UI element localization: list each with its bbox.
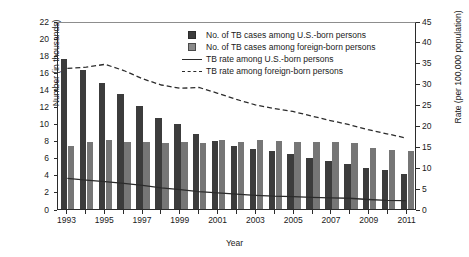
x-tick-1996 xyxy=(123,210,124,214)
x-tick-2002 xyxy=(236,210,237,214)
x-tick-2010 xyxy=(387,210,388,214)
x-tick-label-2005: 2005 xyxy=(278,216,308,225)
legend-item-foreign-born-cases: No. of TB cases among foreign-born perso… xyxy=(181,41,421,53)
y-tick-label-left-18: 18 xyxy=(27,52,49,61)
x-tick-1993 xyxy=(66,210,67,214)
legend-label: No. of TB cases among foreign-born perso… xyxy=(203,42,375,53)
legend-swatch-foreign-born-icon xyxy=(181,43,203,51)
x-tick-label-1995: 1995 xyxy=(89,216,119,225)
y-tick-right-45 xyxy=(416,22,420,23)
y-tick-label-left-12: 12 xyxy=(27,103,49,112)
x-tick-1999 xyxy=(179,210,180,214)
y-tick-label-left-2: 2 xyxy=(27,188,49,197)
x-tick-2001 xyxy=(217,210,218,214)
x-tick-1994 xyxy=(85,210,86,214)
x-tick-2000 xyxy=(198,210,199,214)
y-tick-label-right-45: 45 xyxy=(422,18,444,27)
x-tick-2005 xyxy=(293,210,294,214)
y-axis-right-title: Rate (per 100,000 population) xyxy=(453,0,463,142)
y-tick-label-right-40: 40 xyxy=(422,38,444,47)
legend-line-solid-icon xyxy=(181,59,203,60)
x-tick-label-1997: 1997 xyxy=(127,216,157,225)
y-tick-label-left-4: 4 xyxy=(27,171,49,180)
x-axis-title: Year xyxy=(0,238,469,248)
y-tick-left-14 xyxy=(54,90,58,91)
x-tick-2003 xyxy=(255,210,256,214)
y-tick-label-left-22: 22 xyxy=(27,18,49,27)
x-tick-1998 xyxy=(160,210,161,214)
y-tick-left-18 xyxy=(54,56,58,57)
y-tick-label-left-6: 6 xyxy=(27,154,49,163)
x-tick-label-2007: 2007 xyxy=(316,216,346,225)
x-tick-label-1999: 1999 xyxy=(165,216,195,225)
y-tick-label-left-10: 10 xyxy=(27,120,49,129)
legend-item-foreign-born-rate: TB rate among foreign-born persons xyxy=(181,65,421,77)
chart-legend: No. of TB cases among U.S.-born persons … xyxy=(181,29,421,77)
y-tick-label-right-35: 35 xyxy=(422,59,444,68)
x-tick-2009 xyxy=(368,210,369,214)
y-tick-left-8 xyxy=(54,141,58,142)
y-tick-label-right-20: 20 xyxy=(422,122,444,131)
y-tick-right-25 xyxy=(416,105,420,106)
y-tick-right-15 xyxy=(416,147,420,148)
x-tick-2007 xyxy=(330,210,331,214)
x-tick-label-2001: 2001 xyxy=(203,216,233,225)
y-tick-label-left-16: 16 xyxy=(27,69,49,78)
y-tick-right-5 xyxy=(416,189,420,190)
y-tick-left-2 xyxy=(54,192,58,193)
line-us-born-rate xyxy=(67,178,405,200)
legend-label: No. of TB cases among U.S.-born persons xyxy=(203,30,366,41)
y-tick-label-right-10: 10 xyxy=(422,164,444,173)
y-tick-label-left-20: 20 xyxy=(27,35,49,44)
x-tick-label-2003: 2003 xyxy=(240,216,270,225)
y-tick-label-left-0: 0 xyxy=(27,206,49,215)
y-tick-right-20 xyxy=(416,126,420,127)
y-tick-left-4 xyxy=(54,175,58,176)
legend-item-us-born-cases: No. of TB cases among U.S.-born persons xyxy=(181,29,421,41)
y-tick-right-30 xyxy=(416,84,420,85)
x-tick-2004 xyxy=(274,210,275,214)
y-tick-label-right-5: 5 xyxy=(422,185,444,194)
y-tick-label-right-15: 15 xyxy=(422,143,444,152)
legend-line-dashed-icon xyxy=(181,71,203,72)
y-tick-right-10 xyxy=(416,168,420,169)
y-tick-label-right-30: 30 xyxy=(422,80,444,89)
legend-label: TB rate among foreign-born persons xyxy=(203,66,343,77)
y-tick-left-10 xyxy=(54,124,58,125)
legend-swatch-us-born-icon xyxy=(181,31,203,39)
y-tick-left-0 xyxy=(54,210,58,211)
y-tick-label-left-14: 14 xyxy=(27,86,49,95)
x-tick-label-1993: 1993 xyxy=(51,216,81,225)
x-tick-2011 xyxy=(406,210,407,214)
x-tick-1995 xyxy=(104,210,105,214)
x-tick-2006 xyxy=(312,210,313,214)
y-tick-right-0 xyxy=(416,210,420,211)
tb-cases-and-rates-chart: Number (in thousands) Rate (per 100,000 … xyxy=(0,0,469,257)
x-tick-1997 xyxy=(142,210,143,214)
y-tick-left-16 xyxy=(54,73,58,74)
y-tick-left-6 xyxy=(54,158,58,159)
y-tick-left-12 xyxy=(54,107,58,108)
x-tick-2008 xyxy=(349,210,350,214)
x-tick-label-2011: 2011 xyxy=(392,216,422,225)
y-tick-label-right-25: 25 xyxy=(422,101,444,110)
y-tick-left-22 xyxy=(54,22,58,23)
legend-item-us-born-rate: TB rate among U.S.-born persons xyxy=(181,53,421,65)
y-tick-label-right-0: 0 xyxy=(422,206,444,215)
x-tick-label-2009: 2009 xyxy=(354,216,384,225)
y-tick-label-left-8: 8 xyxy=(27,137,49,146)
y-tick-left-20 xyxy=(54,39,58,40)
legend-label: TB rate among U.S.-born persons xyxy=(203,54,334,65)
